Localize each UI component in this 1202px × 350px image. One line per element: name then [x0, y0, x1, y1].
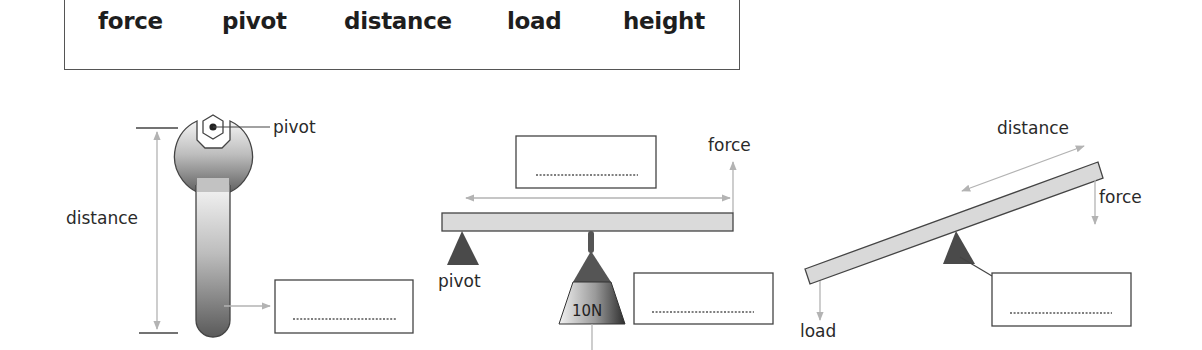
seesaw-force-label: force	[1099, 187, 1142, 207]
balance-pivot-label: pivot	[438, 271, 481, 291]
seesaw-diagram: distance force load	[800, 118, 1142, 341]
spanner-diagram: distance pivot	[66, 115, 413, 337]
seesaw-load-label: load	[800, 321, 836, 341]
tilted-beam	[805, 162, 1103, 284]
weight-label: 10N	[572, 302, 602, 320]
seesaw-answer-box[interactable]	[992, 273, 1131, 326]
balance-top-answer-box[interactable]	[516, 136, 656, 188]
weight-hook	[588, 231, 594, 253]
pivot-triangle	[943, 231, 975, 264]
balance-force-label: force	[708, 135, 751, 155]
pivot-triangle	[447, 231, 479, 265]
seesaw-distance-label: distance	[997, 118, 1069, 138]
balance-beam-diagram: force pivot 10N	[438, 135, 773, 350]
spanner-answer-box[interactable]	[275, 280, 413, 333]
spanner-pivot-label: pivot	[273, 117, 316, 137]
lever-diagrams: distance pivot force pivot 10N	[0, 0, 1202, 350]
spanner-distance-label: distance	[66, 208, 138, 228]
balance-right-answer-box[interactable]	[634, 273, 773, 324]
beam	[442, 213, 733, 231]
